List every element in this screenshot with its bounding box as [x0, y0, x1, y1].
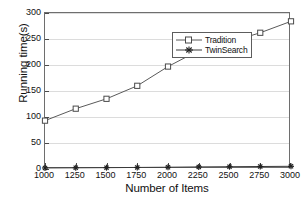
data-point-marker [42, 118, 47, 123]
legend-item-tradition: Tradition [176, 35, 247, 45]
chart-figure: Running time(s) Number of Items Traditio… [0, 0, 305, 202]
series-line [45, 21, 291, 120]
y-tick-label: 300 [7, 7, 41, 17]
data-point-marker [165, 64, 170, 69]
data-point-marker [258, 30, 263, 35]
y-tick-label: 50 [7, 137, 41, 147]
x-tick-label: 3000 [270, 170, 305, 180]
legend-label-twinsearch: TwinSearch [205, 45, 247, 55]
legend-item-twinsearch: TwinSearch [176, 45, 247, 55]
data-point-marker [257, 164, 263, 170]
filled-star-marker-icon [176, 45, 202, 55]
y-tick-label: 150 [7, 85, 41, 95]
x-axis-label: Number of Items [44, 182, 290, 194]
data-point-marker [73, 106, 78, 111]
legend-label-tradition: Tradition [205, 35, 236, 45]
open-square-marker-icon [176, 35, 202, 45]
data-point-marker [288, 19, 293, 24]
y-tick-label: 250 [7, 33, 41, 43]
data-point-marker [104, 96, 109, 101]
chart-legend: Tradition TwinSearch [172, 32, 252, 58]
data-point-marker [135, 83, 140, 88]
data-point-marker [227, 164, 233, 170]
y-tick-label: 200 [7, 59, 41, 69]
plot-area: Tradition TwinSearch [44, 12, 290, 168]
data-point-marker [288, 163, 294, 169]
y-tick-label: 100 [7, 111, 41, 121]
series-plot [45, 13, 291, 169]
